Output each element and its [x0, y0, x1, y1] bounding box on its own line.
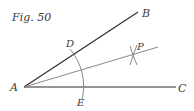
label-d: D — [65, 38, 74, 49]
angle-bisector-diagram: Fig. 50 A B C D E P — [0, 0, 194, 111]
figure-caption: Fig. 50 — [11, 11, 51, 24]
bisector-ray-ap — [24, 47, 158, 87]
label-c: C — [178, 82, 187, 95]
label-p: P — [136, 41, 144, 52]
label-a: A — [9, 81, 18, 94]
label-e: E — [76, 97, 85, 108]
arc-de — [70, 49, 84, 100]
label-b: B — [141, 7, 150, 20]
